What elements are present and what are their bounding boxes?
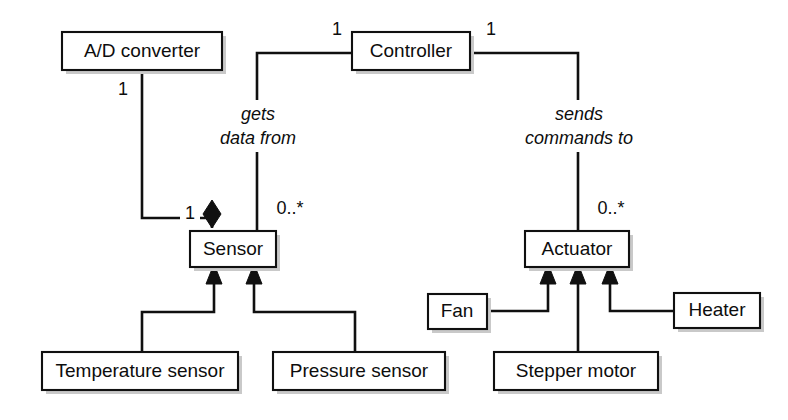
class-label-ad-converter: A/D converter — [84, 40, 201, 61]
connector-heater-to-actuator — [610, 276, 674, 311]
class-label-actuator: Actuator — [542, 238, 613, 259]
class-label-sensor: Sensor — [203, 238, 264, 259]
class-box-ad-converter[interactable]: A/D converter — [62, 32, 226, 74]
multiplicity-sensor-composition: 1 — [180, 202, 200, 224]
association-label-gets-data-from: gets data from — [198, 100, 318, 152]
class-box-stepper-motor[interactable]: Stepper motor — [494, 352, 662, 394]
class-box-heater[interactable]: Heater — [674, 293, 764, 332]
multiplicity-controller-right: 1 — [481, 18, 501, 40]
svg-text:data from: data from — [220, 128, 296, 148]
class-box-actuator[interactable]: Actuator — [525, 231, 633, 271]
svg-text:1: 1 — [185, 203, 195, 223]
class-label-heater: Heater — [688, 299, 746, 320]
class-box-controller[interactable]: Controller — [352, 32, 474, 74]
svg-text:gets: gets — [241, 104, 275, 124]
class-box-temperature-sensor[interactable]: Temperature sensor — [42, 352, 242, 394]
svg-text:0..*: 0..* — [597, 198, 624, 218]
connector-fan-to-actuator — [487, 276, 548, 311]
class-label-stepper-motor: Stepper motor — [516, 360, 637, 381]
association-label-sends-commands-to: sends commands to — [505, 100, 653, 152]
class-label-temperature-sensor: Temperature sensor — [56, 360, 226, 381]
connector-temperature-sensor-to-sensor — [142, 276, 214, 352]
uml-class-diagram: A/D converter Controller Sensor Actuator… — [0, 0, 788, 420]
svg-text:1: 1 — [486, 19, 496, 39]
multiplicity-controller-left: 1 — [327, 18, 347, 40]
multiplicity-actuator-association: 0..* — [587, 196, 635, 220]
svg-text:0..*: 0..* — [276, 198, 303, 218]
svg-text:sends: sends — [555, 104, 603, 124]
class-label-fan: Fan — [441, 300, 474, 321]
class-box-pressure-sensor[interactable]: Pressure sensor — [273, 352, 449, 394]
diagram-canvas: A/D converter Controller Sensor Actuator… — [0, 0, 788, 420]
class-label-controller: Controller — [370, 40, 453, 61]
class-box-sensor[interactable]: Sensor — [190, 231, 280, 271]
svg-text:1: 1 — [118, 79, 128, 99]
multiplicity-sensor-association: 0..* — [266, 196, 314, 220]
multiplicity-ad-converter: 1 — [113, 78, 133, 100]
svg-text:1: 1 — [332, 19, 342, 39]
class-box-fan[interactable]: Fan — [428, 294, 491, 333]
class-label-pressure-sensor: Pressure sensor — [290, 360, 429, 381]
composition-diamond-icon — [203, 200, 221, 228]
connector-pressure-sensor-to-sensor — [254, 276, 355, 352]
svg-text:commands to: commands to — [525, 128, 633, 148]
